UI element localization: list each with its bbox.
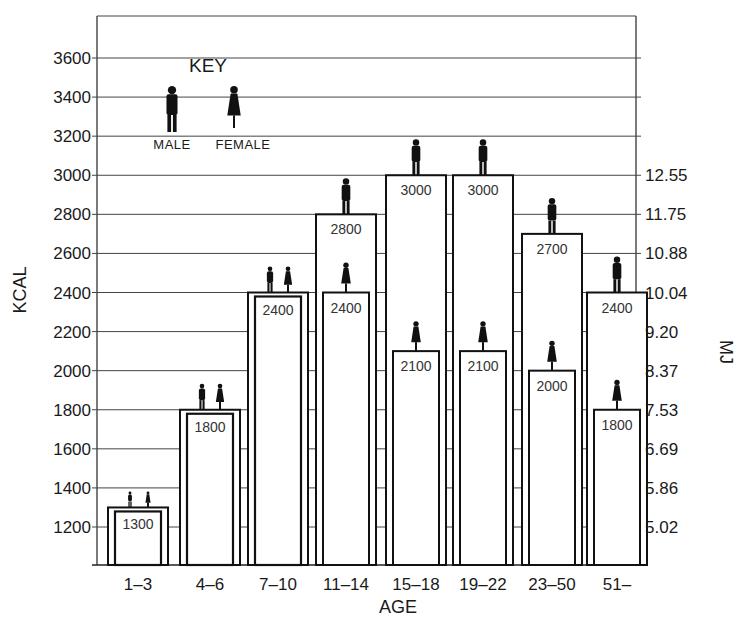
x-tick-label: 15–18 (392, 575, 439, 594)
bar-group-15-18: 30002100 (386, 139, 446, 565)
bar-group-23-50: 27002000 (522, 198, 582, 565)
x-axis: 1–34–67–1011–1415–1819–2223–5051–AGE (124, 575, 632, 617)
bar-value-label-male: 2800 (330, 221, 361, 237)
male-figure-icon (199, 384, 205, 410)
y-tick-label: 2800 (53, 205, 91, 224)
male-figure-icon (267, 267, 273, 293)
male-figure-icon (166, 86, 177, 132)
x-tick-label: 1–3 (124, 575, 152, 594)
y-tick-label-right: 9.20 (645, 323, 678, 342)
bar-value-label: 1300 (122, 516, 153, 532)
y-tick-label: 3000 (53, 166, 91, 185)
bar-group-7-10: 2400 (248, 267, 308, 566)
y-tick-label: 1400 (53, 479, 91, 498)
y-tick-label: 2400 (53, 284, 91, 303)
bar-female (255, 297, 301, 566)
y-tick-label: 1200 (53, 518, 91, 537)
bar-female (323, 293, 369, 566)
y-tick-label-right: 12.55 (645, 166, 688, 185)
male-figure-icon (548, 198, 557, 234)
y-tick-label-right: 5.02 (645, 518, 678, 537)
x-tick-label: 7–10 (259, 575, 297, 594)
bar-value-label-female: 1800 (601, 417, 632, 433)
x-axis-title: AGE (379, 597, 417, 617)
bar-group-51-: 24001800 (587, 257, 647, 566)
legend-title: KEY (189, 55, 227, 76)
male-figure-icon (613, 257, 622, 293)
x-tick-label: 19–22 (459, 575, 506, 594)
y-tick-label: 3400 (53, 88, 91, 107)
bar-value-label-male: 2700 (536, 241, 567, 257)
bar-value-label: 2400 (262, 302, 293, 318)
bar-female (460, 351, 506, 565)
y-tick-label: 3600 (53, 49, 91, 68)
y-axis-right: 5.025.866.697.538.379.2010.0410.8811.751… (645, 166, 736, 537)
y-tick-label: 1600 (53, 440, 91, 459)
bar-group-4-6: 1800 (180, 384, 240, 565)
y-tick-label: 3200 (53, 127, 91, 146)
bar-female (187, 414, 233, 565)
bar-value-label-male: 2400 (601, 300, 632, 316)
bar-group-19-22: 30002100 (453, 139, 513, 565)
male-figure-icon (342, 178, 351, 214)
y-tick-label-right: 5.86 (645, 479, 678, 498)
x-tick-label: 51– (603, 575, 632, 594)
y-tick-label-right: 7.53 (645, 401, 678, 420)
bar-group-1-3: 1300 (108, 491, 168, 565)
y-tick-label: 2200 (53, 323, 91, 342)
male-figure-icon (128, 491, 132, 507)
bar-value-label-female: 2100 (467, 358, 498, 374)
bar-female (594, 410, 640, 565)
bar-value-label-female: 2400 (330, 300, 361, 316)
x-tick-label: 23–50 (528, 575, 575, 594)
y-tick-label-right: 10.04 (645, 284, 688, 303)
y-tick-label-right: 8.37 (645, 362, 678, 381)
y-tick-label: 1800 (53, 401, 91, 420)
bar-value-label-male: 3000 (467, 182, 498, 198)
bars: 1300180024002800240030002100300021002700… (108, 139, 647, 565)
female-figure-icon (216, 384, 224, 410)
y-axis-title-right: MJ (716, 340, 736, 364)
female-figure-icon (284, 267, 292, 293)
legend-label-male: MALE (153, 137, 190, 152)
x-tick-label: 11–14 (323, 575, 369, 594)
bar-female (393, 351, 439, 565)
y-tick-label-right: 6.69 (645, 440, 678, 459)
female-figure-icon (145, 491, 150, 507)
male-figure-icon (479, 139, 488, 175)
bar-female (529, 371, 575, 565)
y-axis-title-left: KCAL (10, 266, 30, 313)
y-axis-left: 1200140016001800200022002400260028003000… (10, 49, 91, 537)
bar-value-label-female: 2100 (400, 358, 431, 374)
female-figure-icon (227, 86, 240, 128)
male-figure-icon (412, 139, 421, 175)
x-tick-label: 4–6 (196, 575, 224, 594)
legend-label-female: FEMALE (215, 137, 270, 152)
legend-key: KEYMALEFEMALE (153, 55, 270, 152)
bar-value-label-male: 3000 (400, 182, 431, 198)
bar-value-label-female: 2000 (536, 378, 567, 394)
y-tick-label-right: 11.75 (645, 205, 686, 224)
y-tick-label: 2600 (53, 244, 91, 263)
bar-value-label: 1800 (194, 419, 225, 435)
energy-requirements-chart: 1300180024002800240030002100300021002700… (0, 0, 753, 642)
y-tick-label-right: 10.88 (645, 244, 688, 263)
bar-group-11-14: 28002400 (316, 178, 376, 565)
y-tick-label: 2000 (53, 362, 91, 381)
